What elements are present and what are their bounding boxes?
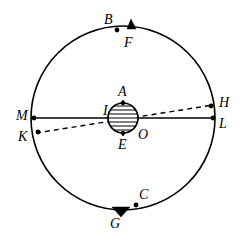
point-h-label: H — [219, 96, 229, 110]
point-b-label: B — [104, 13, 113, 27]
point-l-dot — [211, 116, 216, 121]
earth-globe — [106, 103, 140, 133]
point-e-dot — [121, 131, 125, 135]
point-a-dot — [121, 101, 125, 105]
point-k-dot — [36, 130, 41, 135]
point-c-dot — [134, 203, 139, 208]
point-e-label: E — [118, 138, 127, 152]
point-g-label: G — [110, 217, 120, 231]
top-triangle-marker — [127, 19, 136, 29]
point-m-label: M — [16, 109, 28, 123]
point-k-label: K — [18, 130, 27, 144]
point-i-label: I — [103, 104, 108, 118]
point-l-label: L — [219, 117, 227, 131]
point-o-label: O — [138, 128, 148, 142]
point-f-label: F — [124, 36, 133, 50]
point-m-dot — [32, 116, 37, 121]
diagram-svg — [0, 0, 246, 243]
point-h-dot — [209, 104, 214, 109]
point-b-dot — [115, 28, 120, 33]
point-c-label: C — [139, 188, 148, 202]
point-a-label: A — [118, 85, 127, 99]
diagram-canvas: BFCGMKHLAEIO — [0, 0, 246, 243]
